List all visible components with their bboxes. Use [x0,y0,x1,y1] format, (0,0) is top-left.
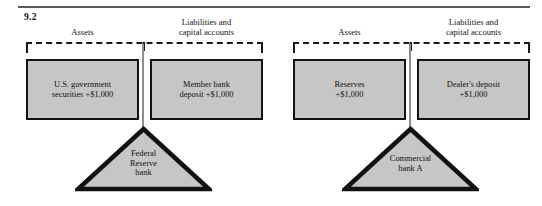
column-header-liabilities: Liabilities and capital accounts [417,18,530,37]
asset-entry-box: Reserves +$1,000 [293,59,406,120]
liability-entry-box: Member bank deposit +$1,000 [150,59,263,120]
dashed-bracket [26,42,263,54]
liability-entry-text: Dealer's deposit +$1,000 [444,80,503,100]
asset-entry-text: U.S. government securities +$1,000 [49,80,116,100]
connector-stem [409,44,411,129]
connector-stem [142,44,144,129]
dashed-bracket [293,42,530,54]
column-header-assets: Assets [293,28,406,38]
asset-entry-box: U.S. government securities +$1,000 [26,59,139,120]
asset-entry-text: Reserves +$1,000 [331,80,367,100]
t-account-panel-federal-reserve: Assets Liabilities and capital accounts … [0,0,271,206]
liability-entry-box: Dealer's deposit +$1,000 [417,59,530,120]
bracket-tick-left [26,42,28,53]
bracket-tick-right [261,42,263,53]
institution-triangle: Commercial bank A [342,126,479,192]
column-header-liabilities: Liabilities and capital accounts [150,18,263,37]
triangle-shape [75,126,212,192]
column-header-assets: Assets [26,28,139,38]
t-account-panel-commercial-bank: Assets Liabilities and capital accounts … [267,0,538,206]
bracket-tick-left [293,42,295,53]
triangle-shape [342,126,479,192]
institution-triangle: Federal Reserve bank [75,126,212,192]
bracket-tick-right [528,42,530,53]
liability-entry-text: Member bank deposit +$1,000 [176,80,236,100]
figure-container: 9.2 Assets Liabilities and capital accou… [0,0,542,206]
